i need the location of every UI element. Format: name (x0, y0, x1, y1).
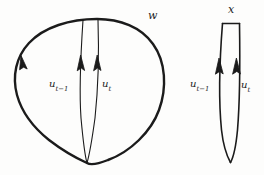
left-inner-curve-u-curr (87, 20, 98, 163)
label-right-u-curr-base: u (241, 79, 247, 90)
label-right-u-prev-subscript: t−1 (197, 85, 210, 93)
label-right-loop-x: x (228, 4, 234, 15)
label-left-u-curr: ut (102, 79, 111, 92)
outer-loop-arrowhead-icon (20, 56, 28, 70)
left-inner-curve-u-prev (80, 20, 87, 163)
label-left-u-prev-subscript: t−1 (56, 85, 69, 93)
figure-drawing (0, 0, 264, 175)
label-left-u-curr-base: u (102, 78, 108, 89)
left-arrowhead-u-prev-icon (77, 55, 84, 71)
label-outer-loop-w: w (148, 10, 157, 21)
outer-loop-curve (15, 19, 164, 164)
right-loop-left-side (220, 24, 231, 163)
label-right-u-curr-subscript: t (248, 86, 251, 94)
label-right-loop-x-text: x (228, 3, 234, 16)
label-right-u-prev-base: u (190, 78, 196, 89)
left-arrowhead-u-curr-icon (94, 55, 101, 71)
label-right-u-curr: ut (241, 80, 250, 93)
figure-canvas: w x ut−1 ut ut−1 ut (0, 0, 264, 175)
label-right-u-prev: ut−1 (190, 79, 209, 92)
right-arrowhead-u-prev-icon (215, 58, 223, 74)
label-left-u-curr-subscript: t (109, 85, 112, 93)
label-outer-loop-w-text: w (148, 9, 157, 22)
label-left-u-prev: ut−1 (49, 79, 68, 92)
right-loop-right-side (231, 24, 240, 163)
label-left-u-prev-base: u (49, 78, 55, 89)
